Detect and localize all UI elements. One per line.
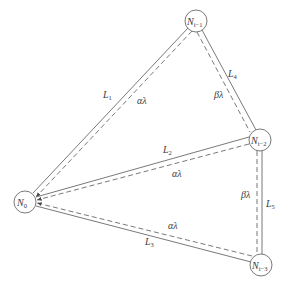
edge-L3: L3 αλ — [36, 203, 252, 262]
label-beta-lambda-2: βλ — [240, 189, 251, 200]
dashed-line-alpha-lambda-3 — [37, 203, 252, 256]
label-alpha-lambda-2: αλ — [172, 168, 182, 179]
edge-L1: L1 αλ — [33, 28, 192, 197]
solid-line-L2 — [36, 137, 249, 197]
label-alpha-lambda-3: αλ — [168, 220, 178, 231]
label-L2: L2 — [162, 144, 172, 156]
node-N0: N0 — [14, 191, 36, 213]
label-alpha-lambda-1: αλ — [137, 95, 147, 106]
solid-line-L1 — [33, 28, 188, 193]
edge-L5: L5 βλ — [240, 151, 275, 254]
dashed-line-beta-lambda-1 — [197, 32, 250, 132]
solid-line-L3 — [36, 206, 251, 262]
network-diagram: L1 αλ L4 βλ L2 αλ L5 βλ L3 αλ N0 Ni−1 — [0, 0, 284, 289]
solid-line-L4 — [202, 30, 256, 130]
label-L3: L3 — [144, 236, 154, 248]
dashed-line-alpha-lambda-1 — [36, 31, 192, 197]
label-L1: L1 — [102, 89, 112, 101]
node-N-i-1: Ni−1 — [185, 10, 207, 32]
edge-L4: L4 βλ — [197, 30, 256, 132]
dashed-line-alpha-lambda-2 — [37, 144, 249, 200]
label-L5: L5 — [265, 198, 275, 210]
label-beta-lambda-1: βλ — [213, 89, 224, 100]
label-L4: L4 — [227, 68, 238, 80]
node-N-i-2: Ni−2 — [249, 129, 271, 151]
node-N-i-3: Ni−3 — [250, 254, 272, 276]
edge-L2: L2 αλ — [36, 137, 249, 200]
